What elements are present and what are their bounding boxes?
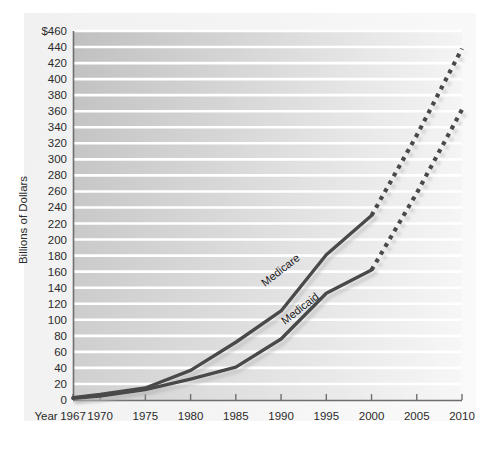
x-tick-label: 2005 (404, 410, 430, 422)
x-axis-title: Year (34, 410, 57, 422)
y-tick-label: 80 (54, 330, 67, 342)
x-tick-label: 2010 (449, 410, 475, 422)
y-tick-label: 160 (48, 266, 67, 278)
chart-figure: 0204060801001201401601802002202402602803… (0, 0, 496, 449)
y-tick-label: 140 (48, 282, 67, 294)
y-tick-labels: 0204060801001201401601802002202402602803… (41, 25, 67, 406)
y-tick-label: 40 (54, 362, 67, 374)
y-tick-label: 260 (48, 185, 67, 197)
x-tick-label: 1970 (87, 410, 113, 422)
y-tick-label: 340 (48, 121, 67, 133)
y-axis-title: Billions of Dollars (17, 176, 29, 264)
y-tick-label: 60 (54, 346, 67, 358)
x-tick-label: 1995 (314, 410, 340, 422)
y-tick-label: 20 (54, 378, 67, 390)
y-tick-label: 120 (48, 298, 67, 310)
y-tick-label: 180 (48, 250, 67, 262)
x-tick-label: 1980 (178, 410, 204, 422)
y-tick-label: 360 (48, 105, 67, 117)
y-tick-label: 320 (48, 137, 67, 149)
y-tick-label: 200 (48, 234, 67, 246)
y-tick-label: 220 (48, 218, 67, 230)
y-tick-label: 100 (48, 314, 67, 326)
medicare-medicaid-spending-line-chart: 0204060801001201401601802002202402602803… (0, 0, 496, 449)
y-tick-label: 420 (48, 57, 67, 69)
x-tick-label: 1967 (60, 410, 86, 422)
y-tick-label: 440 (48, 41, 67, 53)
y-tick-label: 280 (48, 169, 67, 181)
x-tick-label: 2000 (359, 410, 385, 422)
x-tick-label: 1975 (133, 410, 159, 422)
y-tick-label: 300 (48, 153, 67, 165)
y-tick-label: 240 (48, 201, 67, 213)
y-tick-label: 0 (61, 394, 67, 406)
y-tick-label: 380 (48, 89, 67, 101)
x-tick-label: 1990 (268, 410, 294, 422)
y-tick-label: 400 (48, 73, 67, 85)
x-tick-labels: 1967197019751980198519901995200020052010 (60, 410, 475, 422)
y-tick-label: $460 (41, 25, 67, 37)
x-tick-label: 1985 (223, 410, 249, 422)
